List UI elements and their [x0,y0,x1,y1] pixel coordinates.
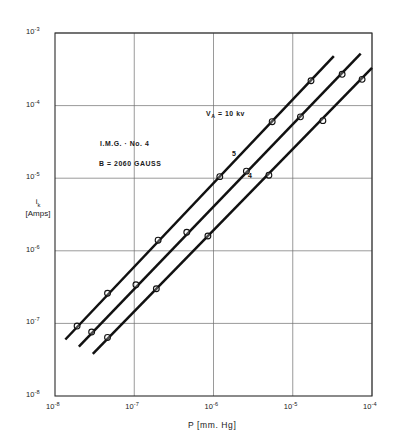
data-point-marker [217,174,223,180]
y-axis-unit: [Amps] [26,209,51,218]
data-point-marker [74,323,80,329]
annotation-device: I.M.G. · No. 4 [100,140,149,147]
data-point-marker [320,118,326,124]
curve-label-4: 4 [248,172,252,179]
data-point-marker [269,119,275,125]
data-point-marker [205,233,211,239]
data-point-marker [155,237,161,243]
data-point-marker [105,290,111,296]
x-axis-symbol: P [188,420,194,430]
x-tick-label: 10-8 [46,402,60,411]
data-point-marker [266,172,272,178]
gridlines-group [55,33,372,396]
data-point-marker [133,282,139,288]
data-curve-5 [79,54,361,347]
data-curve-6 [65,56,334,339]
data-point-marker [105,335,111,341]
data-curves-group [65,54,372,354]
plot-canvas [0,0,420,444]
data-point-marker [153,286,159,292]
y-tick-label: 10-4 [26,100,40,109]
y-tick-label: 10-5 [26,172,40,181]
data-point-marker [308,78,314,84]
y-tick-label: 10-6 [26,245,40,254]
y-tick-label: 10-7 [26,317,40,326]
x-tick-label: 10-6 [205,402,219,411]
x-tick-label: 10-5 [284,402,298,411]
y-axis-symbol: ik [36,197,41,206]
data-point-marker [359,76,365,82]
y-tick-label: 10-8 [26,390,40,399]
y-tick-label: 10-3 [26,27,40,36]
annotation-field: B = 2060 GAUSS [99,160,161,167]
y-axis-title: ik [Amps] [16,196,60,219]
x-tick-label: 10-7 [125,402,139,411]
data-point-marker [298,114,304,120]
curve-label-5: 5 [232,150,236,157]
x-axis-title: P [mm. Hg] [188,420,236,430]
x-axis-unit: [mm. Hg] [197,420,236,430]
data-point-marker [89,329,95,335]
log-log-chart-figure: 10-310-410-510-610-710-8 10-810-710-610-… [0,0,420,444]
x-tick-label: 10-4 [363,402,377,411]
data-point-marker [339,71,345,77]
annotation-voltage: VA = 10 kv [206,110,245,117]
data-point-marker [184,229,190,235]
